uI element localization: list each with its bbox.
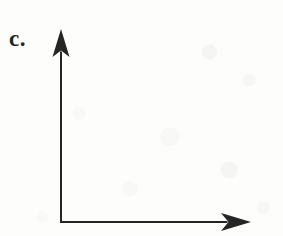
figure-container: c. (0, 0, 283, 236)
coordinate-axes (0, 0, 283, 236)
